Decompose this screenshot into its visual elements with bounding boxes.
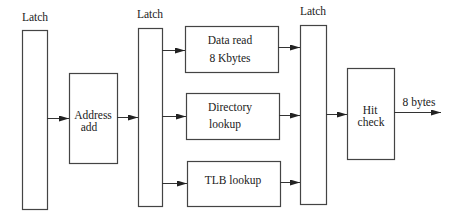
tlb-lookup-line-1: TLB lookup [205, 174, 262, 187]
data-read-line-2: 8 Kbytes [209, 52, 251, 65]
block-data-read: Data read 8 Kbytes [186, 27, 279, 73]
latch-2: Latch [137, 8, 163, 207]
block-address-add: Address add [70, 74, 118, 164]
latch-2-box [139, 29, 163, 207]
block-directory-lookup: Directory lookup [187, 94, 280, 140]
pipeline-diagram: Latch Address add Latch Data read 8 Kbyt… [0, 0, 464, 221]
hit-check-line-1: Hit [363, 104, 379, 116]
data-read-line-1: Data read [208, 34, 253, 46]
latch-3: Latch [300, 5, 327, 205]
block-tlb-lookup: TLB lookup [188, 162, 281, 207]
latch-3-box [301, 26, 327, 205]
latch-1-box [23, 31, 48, 210]
latch-2-label: Latch [137, 8, 163, 20]
latch-3-label: Latch [300, 5, 326, 17]
latch-1: Latch [22, 11, 48, 210]
block-hit-check: Hit check [348, 69, 395, 160]
hit-check-line-2: check [358, 116, 385, 128]
directory-lookup-line-2: lookup [209, 118, 241, 131]
output-label: 8 bytes [403, 96, 436, 109]
address-add-line-2: add [81, 121, 98, 133]
directory-lookup-line-1: Directory [208, 101, 252, 114]
latch-1-label: Latch [22, 11, 48, 23]
address-add-line-1: Address [74, 109, 112, 121]
